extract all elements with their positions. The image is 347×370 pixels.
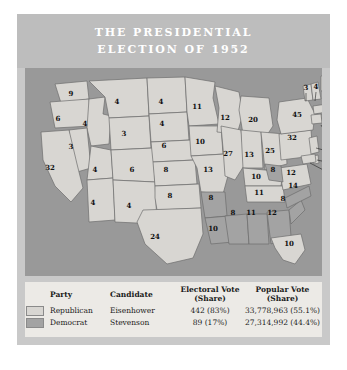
electoral-votes-wv: 8 xyxy=(271,165,276,174)
legend-row-republican: Republican Eisenhower 442 (83%) 33,778,9… xyxy=(25,305,322,317)
map-legend: Party Candidate Electoral Vote (Share) P… xyxy=(25,282,322,337)
legend-header-row: Party Candidate Electoral Vote (Share) P… xyxy=(25,282,322,305)
us-electoral-map: 9644333244644468824111013810122720132510… xyxy=(25,68,322,276)
legend-header-popular-l2: (Share) xyxy=(267,294,299,303)
state-ne xyxy=(151,140,193,162)
electoral-votes-tn: 11 xyxy=(254,188,264,197)
electoral-votes-ks: 8 xyxy=(164,165,169,174)
figure-title-line-2: ELECTION OF 1952 xyxy=(97,41,249,58)
legend-electoral-democrat: 89 (17%) xyxy=(177,317,243,329)
legend-party-democrat: Democrat xyxy=(49,317,109,329)
state-sd xyxy=(149,112,189,142)
state-tn xyxy=(245,186,285,202)
electoral-votes-ut: 4 xyxy=(93,165,98,174)
electoral-votes-co: 6 xyxy=(130,165,135,174)
legend-swatch-democrat-cell xyxy=(25,317,49,329)
state-al xyxy=(247,214,269,244)
electoral-votes-tx: 24 xyxy=(150,232,160,241)
legend-header-popular: Popular Vote (Share) xyxy=(243,282,322,305)
leader-line-ct xyxy=(321,125,322,141)
leader-line-md xyxy=(310,163,322,174)
legend-header-electoral-l1: Electoral Vote xyxy=(180,285,239,294)
electoral-votes-va: 12 xyxy=(286,168,296,177)
legend-header-party: Party xyxy=(49,282,109,305)
electoral-votes-ky: 10 xyxy=(251,172,261,181)
state-nj xyxy=(309,136,319,154)
electoral-votes-la: 10 xyxy=(208,224,218,233)
electoral-votes-il: 27 xyxy=(223,149,233,158)
state-md xyxy=(301,154,316,164)
electoral-votes-nm: 4 xyxy=(127,201,132,210)
legend-header-popular-l1: Popular Vote xyxy=(256,285,310,294)
legend-popular-republican: 33,778,963 (55.1%) xyxy=(243,305,322,317)
figure-title-line-1: THE PRESIDENTIAL xyxy=(95,24,253,41)
figure-title-band: THE PRESIDENTIAL ELECTION OF 1952 xyxy=(17,14,330,68)
state-in xyxy=(241,130,263,168)
electoral-votes-ia: 10 xyxy=(195,137,205,146)
state-ct xyxy=(311,114,322,124)
electoral-votes-pa: 32 xyxy=(287,133,297,142)
electoral-votes-sc: 8 xyxy=(281,194,286,203)
state-wy xyxy=(109,116,151,150)
state-tx xyxy=(137,208,203,264)
electoral-votes-ms: 8 xyxy=(231,208,236,217)
electoral-votes-fl: 10 xyxy=(284,239,294,248)
electoral-votes-nv: 3 xyxy=(69,142,74,151)
map-svg: 9644333244644468824111013810122720132510… xyxy=(25,68,322,276)
electoral-votes-al: 11 xyxy=(246,208,256,217)
electoral-votes-nd: 4 xyxy=(159,97,164,106)
electoral-votes-ok: 8 xyxy=(168,191,173,200)
electoral-votes-nc: 14 xyxy=(288,181,298,190)
legend-electoral-republican: 442 (83%) xyxy=(177,305,243,317)
electoral-votes-wy: 3 xyxy=(122,129,127,138)
state-mn xyxy=(185,77,219,126)
electoral-votes-nh: 4 xyxy=(314,82,319,91)
state-ms xyxy=(225,214,249,244)
legend-row-democrat: Democrat Stevenson 89 (17%) 27,314,992 (… xyxy=(25,317,322,329)
electoral-votes-mo: 13 xyxy=(203,165,213,174)
electoral-votes-ny: 45 xyxy=(292,110,302,119)
electoral-votes-ne: 6 xyxy=(162,141,167,150)
state-ar xyxy=(201,192,227,218)
legend-header-candidate: Candidate xyxy=(109,282,177,305)
electoral-votes-wi: 12 xyxy=(220,113,230,122)
state-ok xyxy=(155,184,201,210)
state-me xyxy=(321,74,322,100)
electoral-votes-ar: 8 xyxy=(209,193,214,202)
republican-color-swatch xyxy=(26,306,44,316)
legend-header-electoral: Electoral Vote (Share) xyxy=(177,282,243,305)
election-map-figure: THE PRESIDENTIAL ELECTION OF 1952 964433… xyxy=(17,14,330,345)
legend-popular-democrat: 27,314,992 (44.4%) xyxy=(243,317,322,329)
legend-candidate-stevenson: Stevenson xyxy=(109,317,177,329)
state-nd xyxy=(147,77,187,114)
electoral-votes-id: 4 xyxy=(83,119,88,128)
democrat-color-swatch xyxy=(26,318,44,328)
electoral-votes-vt: 3 xyxy=(304,83,309,92)
legend-swatch-republican-cell xyxy=(25,305,49,317)
legend-table: Party Candidate Electoral Vote (Share) P… xyxy=(25,282,322,329)
electoral-votes-az: 4 xyxy=(91,198,96,207)
electoral-votes-wa: 9 xyxy=(69,89,74,98)
legend-header-electoral-l2: (Share) xyxy=(194,294,226,303)
state-ma xyxy=(313,104,322,114)
electoral-votes-mi: 20 xyxy=(248,115,258,124)
electoral-votes-mn: 11 xyxy=(192,102,202,111)
legend-party-republican: Republican xyxy=(49,305,109,317)
state-ks xyxy=(153,160,197,186)
electoral-votes-ga: 12 xyxy=(267,208,277,217)
electoral-votes-oh: 25 xyxy=(265,146,275,155)
legend-header-swatch xyxy=(25,282,49,305)
electoral-votes-in: 13 xyxy=(244,150,254,159)
state-ut xyxy=(87,146,113,180)
electoral-votes-mt: 4 xyxy=(115,97,120,106)
legend-candidate-eisenhower: Eisenhower xyxy=(109,305,177,317)
electoral-votes-ca: 32 xyxy=(45,163,55,172)
electoral-votes-or: 6 xyxy=(56,114,61,123)
electoral-votes-sd: 4 xyxy=(160,119,165,128)
